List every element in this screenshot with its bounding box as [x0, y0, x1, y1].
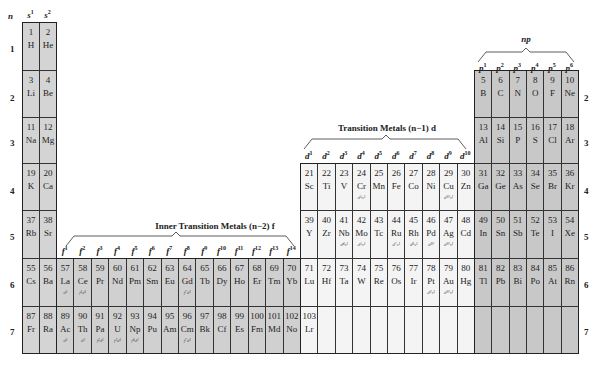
subshell-count: 13 [272, 245, 278, 251]
subshell-header-f10: f10 [213, 245, 230, 256]
subshell-count: 2 [82, 245, 85, 251]
subshell-count: 10 [465, 150, 471, 156]
subshell-count: 12 [255, 245, 261, 251]
subshell-count: 4 [362, 150, 365, 156]
subshell-header-f9: f9 [195, 245, 212, 256]
subshell-count: 9 [204, 245, 207, 251]
subshell-header-p5: p5 [543, 62, 560, 73]
subshell-count: 3 [344, 150, 347, 156]
subshell-header-f13: f13 [265, 245, 282, 256]
subshell-count: 6 [396, 150, 399, 156]
period-label-left: 2 [10, 93, 15, 103]
subshell-count: 3 [100, 245, 103, 251]
subshell-count: 5 [134, 245, 137, 251]
subshell-header-s2: s2 [39, 9, 56, 20]
subshell-count: 1 [31, 9, 34, 15]
period-label-left: 4 [10, 186, 15, 196]
period-label-left: 6 [10, 280, 15, 290]
subshell-count: 2 [48, 9, 51, 15]
subshell-header-p2: p2 [491, 62, 508, 73]
period-label-left: 7 [10, 327, 15, 337]
subshell-count: 8 [187, 245, 190, 251]
subshell-count: 7 [414, 150, 417, 156]
period-label-right: 4 [584, 186, 589, 196]
subshell-header-f2: f2 [73, 245, 90, 256]
subshell-header-f1: f1 [56, 245, 73, 256]
subshell-count: 4 [535, 62, 538, 68]
period-label-right: 7 [584, 327, 589, 337]
subshell-header-d10: d10 [457, 150, 474, 161]
subshell-count: 9 [449, 150, 452, 156]
subshell-header-f11: f11 [230, 245, 247, 256]
subshell-count: 8 [431, 150, 434, 156]
subshell-header-d9: d9 [439, 150, 456, 161]
subshell-count: 5 [379, 150, 382, 156]
subshell-header-d5: d5 [370, 150, 387, 161]
subshell-header-d6: d6 [387, 150, 404, 161]
subshell-header-f7: f7 [161, 245, 178, 256]
period-label-right: 3 [584, 138, 589, 148]
subshell-header-d2: d2 [317, 150, 334, 161]
subshell-count: 4 [117, 245, 120, 251]
subshell-header-f4: f4 [108, 245, 125, 256]
subshell-count: 6 [570, 62, 573, 68]
subshell-count: 7 [169, 245, 172, 251]
subshell-count: 1 [483, 62, 486, 68]
subshell-count: 11 [238, 245, 244, 251]
subshell-header-d4: d4 [352, 150, 369, 161]
period-label-right: 2 [584, 93, 589, 103]
period-label-left: 3 [10, 138, 15, 148]
subshell-header-f3: f3 [91, 245, 108, 256]
subshell-header-p6: p6 [561, 62, 578, 73]
subshell-count: 2 [501, 62, 504, 68]
subshell-count: 14 [290, 245, 296, 251]
subshell-header-d7: d7 [404, 150, 421, 161]
subshell-header-p3: p3 [509, 62, 526, 73]
subshell-header-f12: f12 [248, 245, 265, 256]
subshell-header-f14: f14 [283, 245, 300, 256]
subshell-count: 10 [220, 245, 226, 251]
subshell-count: 1 [65, 245, 68, 251]
subshell-header-d1: d1 [300, 150, 317, 161]
subshell-count: 1 [309, 150, 312, 156]
subshell-count: 3 [518, 62, 521, 68]
subshell-count: 2 [327, 150, 330, 156]
subshell-header-s1: s1 [22, 9, 39, 20]
period-label-right: 6 [584, 280, 589, 290]
subshell-header-f5: f5 [126, 245, 143, 256]
subshell-header-p4: p4 [526, 62, 543, 73]
subshell-header-d8: d8 [422, 150, 439, 161]
subshell-header-f6: f6 [143, 245, 160, 256]
period-label-right: 5 [584, 232, 589, 242]
period-label-left: 5 [10, 232, 15, 242]
subshell-header-f8: f8 [178, 245, 195, 256]
subshell-count: 5 [553, 62, 556, 68]
period-label-left: 1 [10, 44, 15, 54]
subshell-count: 6 [152, 245, 155, 251]
f-block-brace [0, 0, 599, 365]
subshell-header-p1: p1 [474, 62, 491, 73]
subshell-header-d3: d3 [335, 150, 352, 161]
